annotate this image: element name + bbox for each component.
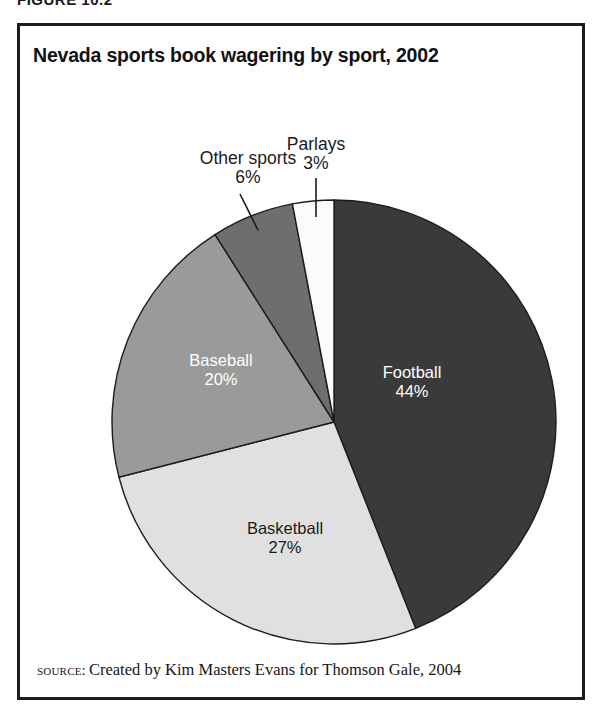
- pie-slices: [112, 200, 556, 644]
- source-text: Created by Kim Masters Evans for Thomson…: [89, 660, 461, 679]
- source-line: source:Created by Kim Masters Evans for …: [37, 660, 461, 680]
- pie-chart: Football44%Basketball27%Baseball20%Other…: [0, 0, 601, 709]
- pie-label-other-sports: Other sports6%: [200, 148, 297, 187]
- source-label: source:: [37, 662, 86, 678]
